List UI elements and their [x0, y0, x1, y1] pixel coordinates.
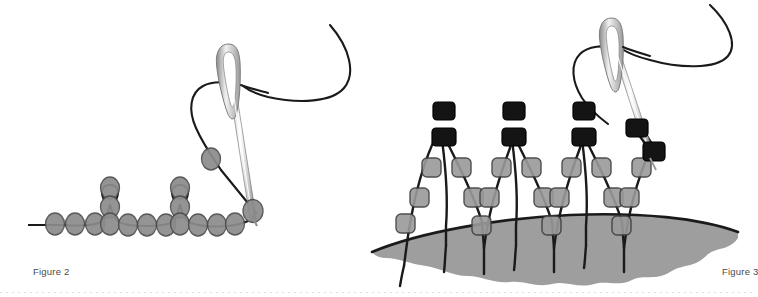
square-beads-row-2 — [410, 188, 639, 207]
base-row-beads — [46, 213, 245, 236]
figure-3-caption: Figure 3 — [722, 266, 758, 277]
figure-2-illustration — [0, 0, 377, 297]
figure-3-illustration — [360, 0, 754, 297]
black-apex-beads — [432, 102, 596, 146]
picot-top-beads — [101, 177, 190, 199]
sewing-needle — [216, 44, 256, 222]
figure-3-panel: Figure 3 — [360, 0, 754, 297]
figure-2-panel: Figure 2 — [0, 0, 377, 297]
figure-2-caption: Figure 2 — [33, 266, 69, 277]
thread-free-end — [622, 5, 732, 66]
square-beads-row-1 — [422, 158, 651, 177]
page-bottom-rule — [0, 292, 754, 293]
